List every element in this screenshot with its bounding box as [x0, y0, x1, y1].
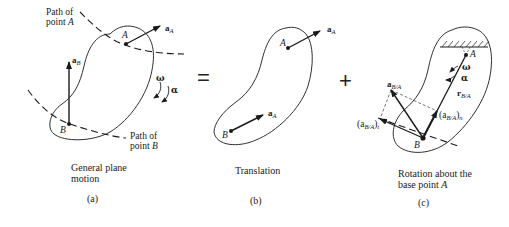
path-b-point-letter: B — [152, 141, 158, 151]
vector-a-BA-t-label: (aB/A)t — [357, 119, 379, 132]
omega-arrow — [154, 82, 161, 98]
alpha-label: α — [171, 85, 178, 95]
point-a-label: A — [122, 30, 128, 40]
vector-a-BA-label: aB/A — [387, 79, 401, 92]
caption-b: Translation — [235, 165, 280, 176]
path-a-label-line2: point A — [46, 17, 74, 27]
panel-b-drawing — [214, 27, 320, 144]
vector-a-A-bottom — [231, 115, 263, 131]
sublabel-b: (b) — [250, 195, 262, 206]
path-b-label-line2: point B — [130, 141, 158, 151]
point-b-label-b: B — [222, 130, 228, 140]
rigid-body-outline-b — [214, 27, 312, 144]
vector-a-A-top-label: aA — [327, 24, 335, 37]
point-a-label-c: A — [470, 49, 476, 59]
diagram-canvas — [0, 0, 509, 227]
path-b-label: Path of point B — [130, 131, 158, 151]
point-a-label-b: A — [280, 38, 286, 48]
caption-c-point-letter: A — [441, 179, 447, 190]
sublabel-a: (a) — [87, 193, 98, 204]
path-a-label: Path of point A — [46, 7, 74, 27]
vector-a-A-top — [288, 31, 320, 48]
vector-r-BA-label: rB/A — [457, 88, 471, 101]
point-b-label-c: B — [414, 140, 420, 150]
caption-a-line2: motion — [71, 173, 127, 184]
equals-sign: = — [197, 67, 210, 89]
caption-c: Rotation about the base point A — [398, 168, 472, 190]
point-b-label: B — [60, 125, 66, 135]
alpha-arrow — [162, 86, 169, 102]
caption-c-line2: base point A — [398, 179, 472, 190]
vector-a-A — [126, 26, 160, 44]
rigid-body-outline-c — [393, 27, 491, 152]
vector-a-A-bottom-label: aA — [268, 108, 276, 121]
caption-a-line1: General plane — [71, 162, 127, 173]
omega-label-c: ω — [462, 62, 471, 72]
plus-sign: + — [339, 70, 352, 92]
vector-a-A-label: aA — [165, 23, 173, 36]
path-a-point-letter: A — [68, 17, 74, 27]
vector-a-BA-n — [423, 111, 437, 138]
vector-a-B-label: aB — [72, 55, 80, 68]
omega-label: ω — [156, 73, 165, 83]
omega-arrow-c — [450, 66, 458, 72]
alpha-label-c: α — [461, 73, 468, 83]
fixed-support-hatch — [442, 41, 489, 47]
caption-a: General plane motion — [71, 162, 127, 184]
caption-c-line1: Rotation about the — [398, 168, 472, 179]
sublabel-c: (c) — [418, 197, 429, 208]
vector-a-BA-n-label: (aB/A)n — [439, 110, 463, 123]
path-b-label-line1: Path of — [130, 131, 158, 141]
path-a-label-line1: Path of — [46, 7, 74, 17]
